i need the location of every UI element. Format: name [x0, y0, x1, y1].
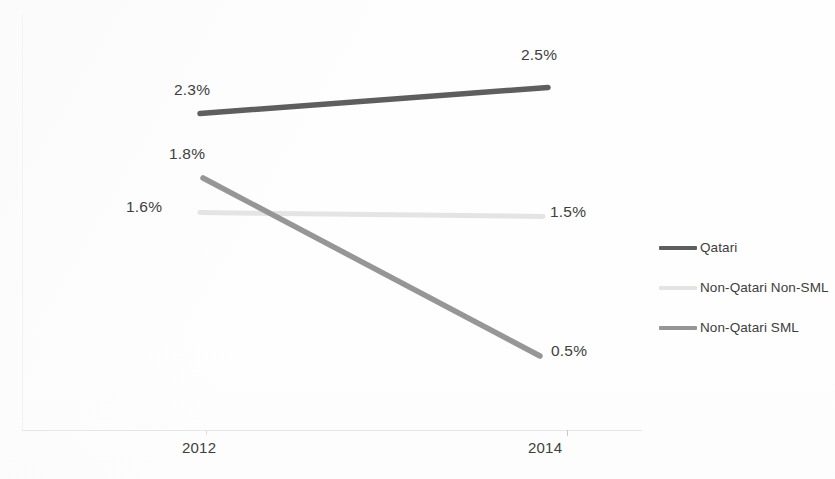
data-label-non-qatari-non-sml-2012: 1.6% [126, 198, 162, 216]
legend-swatch-non-qatari-non-sml [659, 286, 697, 290]
slope-chart: 2.3% 2.5% 1.8% 0.5% 1.6% 1.5% 2012 2014 … [0, 0, 835, 479]
data-label-non-qatari-non-sml-2014: 1.5% [550, 203, 586, 221]
data-label-non-qatari-sml-2014: 0.5% [551, 342, 587, 360]
legend-label-qatari: Qatari [700, 241, 737, 255]
line-segment-qatari [200, 88, 548, 114]
legend-item-qatari[interactable]: Qatari [659, 239, 831, 257]
legend-item-non-qatari-non-sml[interactable]: Non-Qatari Non-SML [659, 279, 831, 297]
data-label-qatari-2014: 2.5% [521, 46, 557, 64]
x-axis-label-2014: 2014 [528, 439, 562, 456]
data-label-qatari-2012: 2.3% [174, 81, 210, 99]
legend-swatch-qatari [659, 246, 697, 250]
legend-swatch-non-qatari-sml [659, 326, 697, 330]
legend-label-non-qatari-non-sml: Non-Qatari Non-SML [700, 281, 829, 295]
series-line-qatari[interactable] [200, 88, 548, 114]
x-axis-label-2012: 2012 [182, 439, 216, 456]
chart-legend: Qatari Non-Qatari Non-SML Non-Qatari SML [659, 239, 831, 359]
line-segment-non-qatari-non-sml [200, 213, 543, 217]
legend-label-non-qatari-sml: Non-Qatari SML [700, 321, 799, 335]
line-segment-non-qatari-sml [203, 178, 540, 356]
data-label-non-qatari-sml-2012: 1.8% [169, 145, 205, 163]
series-line-non-qatari-non-sml[interactable] [200, 213, 543, 217]
series-line-non-qatari-sml[interactable] [203, 178, 540, 356]
legend-item-non-qatari-sml[interactable]: Non-Qatari SML [659, 319, 831, 337]
